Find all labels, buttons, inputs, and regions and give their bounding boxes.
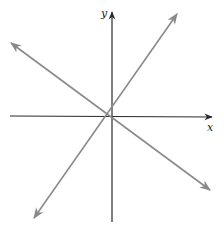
diagram-canvas: y x bbox=[0, 0, 224, 233]
x-axis-label: x bbox=[207, 121, 214, 134]
coordinate-plane-diagram: y x bbox=[0, 0, 224, 233]
y-axis-label: y bbox=[100, 7, 108, 20]
